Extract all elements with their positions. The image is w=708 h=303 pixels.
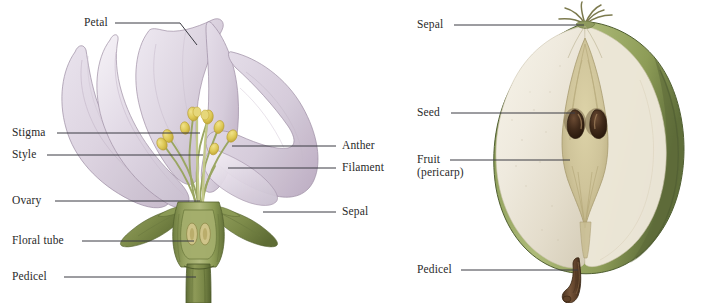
label-sepal-fruit: Sepal — [417, 18, 443, 31]
label-fruit-pericarp: (pericarp) — [417, 166, 464, 179]
label-ovary: Ovary — [12, 194, 42, 207]
label-filament: Filament — [342, 161, 384, 174]
label-pedicel-fruit: Pedicel — [417, 263, 452, 276]
label-petal: Petal — [84, 16, 108, 29]
label-fruit: Fruit — [417, 153, 440, 166]
label-sepal-flower: Sepal — [342, 205, 368, 218]
figure-canvas: Petal Stigma Style Ovary Floral tube Ped… — [0, 0, 708, 303]
label-style: Style — [12, 148, 36, 161]
label-seed: Seed — [417, 106, 440, 119]
leader-petal — [115, 23, 197, 45]
label-stigma: Stigma — [12, 126, 46, 139]
label-pedicel-flower: Pedicel — [12, 270, 47, 283]
label-floral-tube: Floral tube — [12, 234, 64, 247]
label-anther: Anther — [342, 139, 375, 152]
